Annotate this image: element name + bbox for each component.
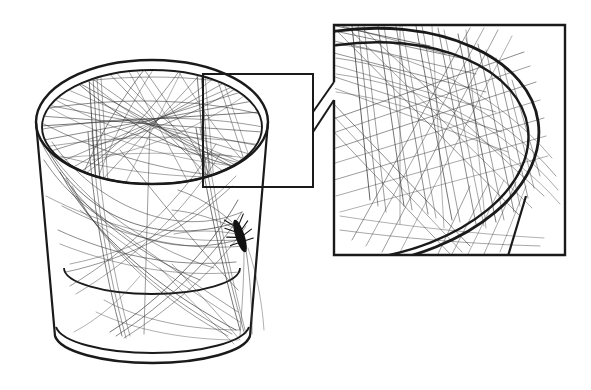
figure-root: Spider silk web spun inside a cylindrica… <box>0 0 591 390</box>
illustration-canvas <box>0 0 591 390</box>
